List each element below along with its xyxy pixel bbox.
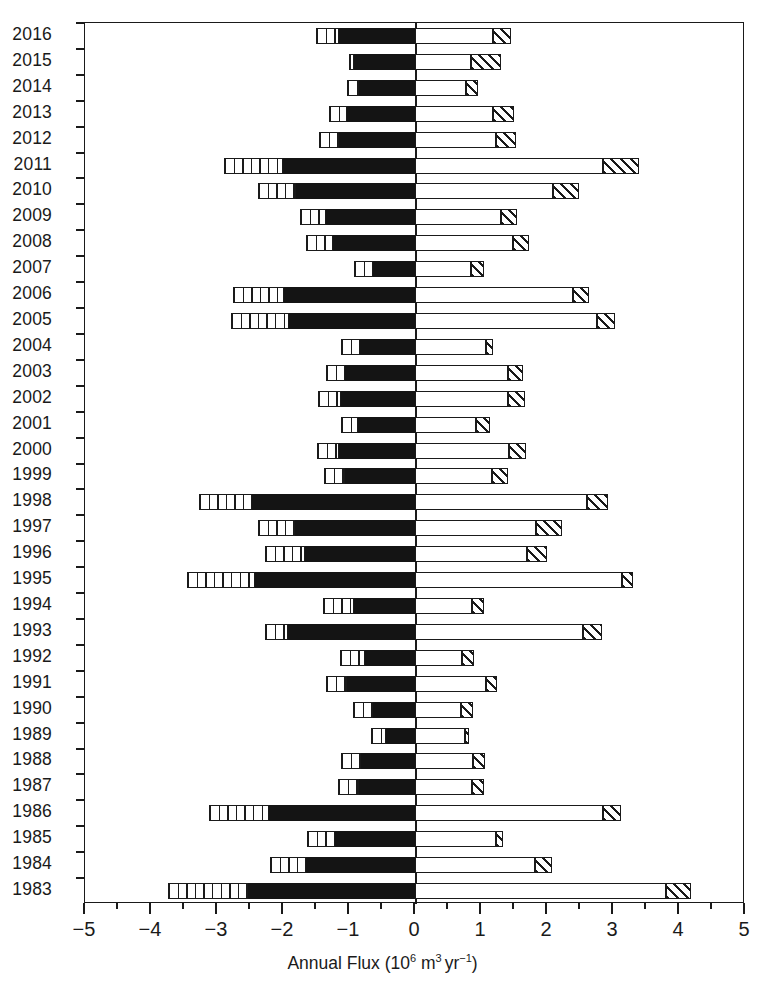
bar-seg-neg-solid-1997 (295, 520, 415, 536)
y-tick-mark (76, 592, 84, 594)
y-tick-label-1987: 1987 (12, 777, 52, 795)
bar-row-1988 (85, 753, 745, 769)
x-tick-label-0: −5 (73, 919, 96, 939)
bar-seg-pos-open-2010 (415, 183, 553, 199)
bar-seg-neg-hatch-2003 (326, 365, 345, 381)
y-tick-label-2003: 2003 (12, 363, 52, 381)
bar-seg-pos-hatch-2001 (476, 417, 490, 433)
y-tick-label-1995: 1995 (12, 570, 52, 588)
bar-seg-neg-hatch-1983 (168, 883, 249, 899)
bar-seg-neg-solid-2008 (333, 235, 415, 251)
y-tick-mark (76, 203, 84, 205)
bar-seg-neg-solid-2001 (358, 417, 415, 433)
bar-seg-pos-hatch-1989 (465, 728, 469, 744)
y-tick-label-1989: 1989 (12, 726, 52, 744)
y-tick-label-1983: 1983 (12, 881, 52, 899)
bar-seg-pos-hatch-1991 (486, 676, 497, 692)
bar-seg-pos-hatch-2007 (471, 261, 484, 277)
bar-seg-neg-solid-2000 (339, 443, 415, 459)
y-tick-mark (76, 48, 84, 50)
x-tick-label-9: 4 (672, 919, 683, 939)
bar-seg-neg-solid-2011 (283, 158, 415, 174)
bar-seg-neg-solid-2014 (359, 80, 415, 96)
y-tick-mark (76, 22, 84, 24)
y-tick-mark (76, 333, 84, 335)
x-tick-label-5: 0 (408, 919, 419, 939)
y-tick-mark (76, 307, 84, 309)
y-tick-mark (76, 825, 84, 827)
bar-seg-neg-hatch-2008 (306, 235, 333, 251)
x-axis-title-exp3: −1 (459, 952, 472, 964)
bar-seg-pos-open-2001 (415, 417, 476, 433)
y-tick-mark (76, 851, 84, 853)
x-tick-label-8: 3 (606, 919, 617, 939)
x-tick-label-3: −2 (271, 919, 294, 939)
y-tick-label-2013: 2013 (12, 104, 52, 122)
y-tick-label-2007: 2007 (12, 259, 52, 277)
y-tick-mark (76, 488, 84, 490)
x-tick-major (347, 903, 349, 914)
bar-seg-neg-solid-1984 (306, 857, 415, 873)
bar-seg-pos-hatch-1985 (496, 831, 503, 847)
bar-seg-neg-hatch-1984 (270, 857, 306, 873)
y-tick-mark (76, 126, 84, 128)
x-axis-title-exp2: 3 (436, 952, 442, 964)
y-tick-label-1992: 1992 (12, 648, 52, 666)
x-tick-major (281, 903, 283, 914)
x-axis-title-lead: Annual Flux (10 (287, 953, 410, 973)
x-tick-major (83, 903, 85, 914)
x-tick-minor (644, 903, 645, 909)
zero-axis-line (415, 23, 417, 904)
bar-seg-pos-hatch-1999 (492, 468, 509, 484)
bar-row-2007 (85, 261, 745, 277)
x-tick-label-1: −4 (139, 919, 162, 939)
bar-seg-neg-hatch-1996 (265, 546, 305, 562)
x-tick-label-6: 1 (474, 919, 485, 939)
bar-seg-pos-open-2015 (415, 54, 471, 70)
bar-row-2013 (85, 106, 745, 122)
x-tick-major (743, 903, 745, 914)
bar-seg-neg-hatch-1997 (258, 520, 295, 536)
bar-seg-neg-hatch-1999 (324, 468, 345, 484)
x-tick-major (611, 903, 613, 914)
bar-seg-pos-hatch-1987 (472, 779, 484, 795)
x-tick-major (215, 903, 217, 914)
y-tick-label-2006: 2006 (12, 285, 52, 303)
bar-seg-pos-hatch-2008 (513, 235, 530, 251)
y-tick-mark (76, 670, 84, 672)
bar-seg-pos-open-1993 (415, 624, 583, 640)
bar-seg-neg-hatch-2014 (347, 80, 359, 96)
bar-seg-pos-hatch-2012 (496, 132, 516, 148)
bar-seg-neg-solid-1993 (288, 624, 415, 640)
bar-seg-neg-solid-2007 (373, 261, 415, 277)
bar-row-2008 (85, 235, 745, 251)
bar-row-1993 (85, 624, 745, 640)
x-tick-minor (380, 903, 381, 909)
bar-seg-neg-hatch-1989 (371, 728, 386, 744)
y-tick-mark (76, 229, 84, 231)
x-tick-label-4: −1 (337, 919, 360, 939)
bar-seg-neg-solid-2009 (326, 209, 415, 225)
bar-row-2010 (85, 183, 745, 199)
bar-seg-neg-hatch-2011 (224, 158, 283, 174)
y-tick-label-2002: 2002 (12, 389, 52, 407)
x-tick-label-7: 2 (540, 919, 551, 939)
bar-seg-pos-open-1988 (415, 753, 473, 769)
bar-row-2012 (85, 132, 745, 148)
bar-seg-neg-solid-1987 (359, 779, 415, 795)
bar-seg-neg-solid-2010 (296, 183, 415, 199)
x-axis-title-unit-yr: yr (445, 953, 460, 973)
y-tick-mark (76, 696, 84, 698)
x-tick-major (413, 903, 415, 914)
y-tick-label-2015: 2015 (12, 52, 52, 70)
bar-seg-pos-hatch-1983 (666, 883, 691, 899)
bar-seg-neg-hatch-1986 (209, 805, 269, 821)
y-tick-mark (76, 100, 84, 102)
x-tick-minor (446, 903, 447, 909)
bar-seg-neg-hatch-1991 (326, 676, 347, 692)
bar-seg-neg-solid-2004 (360, 339, 415, 355)
bar-seg-neg-solid-2012 (339, 132, 415, 148)
bar-seg-pos-open-1986 (415, 805, 603, 821)
bar-seg-neg-hatch-1992 (340, 650, 364, 666)
y-tick-label-2005: 2005 (12, 311, 52, 329)
